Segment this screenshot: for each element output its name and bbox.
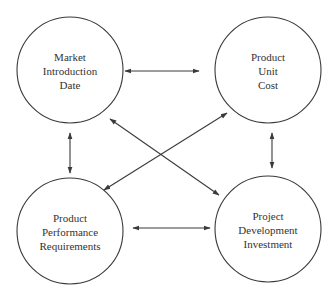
arrow-unit-cost-to-performance <box>104 113 227 190</box>
label-line: Development <box>218 223 318 237</box>
label-line: Cost <box>218 78 318 92</box>
label-line: Product <box>20 211 120 225</box>
arrow-market-date-to-investment <box>110 119 219 195</box>
node-label-product-unit-cost: Product Unit Cost <box>218 50 318 92</box>
label-line: Introduction <box>20 64 120 78</box>
node-label-product-performance-requirements: Product Performance Requirements <box>20 211 120 253</box>
label-line: Unit <box>218 64 318 78</box>
label-line: Requirements <box>20 239 120 253</box>
label-line: Date <box>20 78 120 92</box>
label-line: Investment <box>218 237 318 251</box>
node-label-project-development-investment: Project Development Investment <box>218 209 318 251</box>
label-line: Performance <box>20 225 120 239</box>
node-label-market-introduction-date: Market Introduction Date <box>20 50 120 92</box>
label-line: Project <box>218 209 318 223</box>
label-line: Product <box>218 50 318 64</box>
label-line: Market <box>20 50 120 64</box>
